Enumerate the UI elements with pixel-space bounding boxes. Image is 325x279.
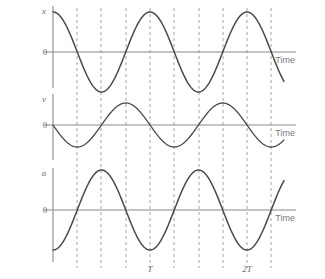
zero-label-acceleration: 0 [43, 205, 48, 215]
shm-graphs-figure: x0Timev0Timea0TimeT2T [0, 0, 325, 279]
curves-group [53, 12, 284, 250]
axes-group [44, 6, 296, 262]
period-marker-t: T [147, 264, 153, 274]
axis-label-velocity: v [42, 94, 46, 104]
period-marker-2t: 2T [242, 264, 253, 274]
dashed-gridlines-group [77, 8, 271, 268]
labels-group: x0Timev0Timea0TimeT2T [41, 6, 295, 274]
time-axis-label-velocity: Time [275, 128, 295, 138]
zero-label-velocity: 0 [43, 120, 48, 130]
shm-plot-svg: x0Timev0Timea0TimeT2T [0, 0, 325, 279]
time-axis-label-displacement: Time [275, 55, 295, 65]
time-axis-label-acceleration: Time [275, 213, 295, 223]
axis-label-acceleration: a [42, 168, 47, 178]
axis-label-displacement: x [41, 6, 46, 16]
zero-label-displacement: 0 [43, 47, 48, 57]
